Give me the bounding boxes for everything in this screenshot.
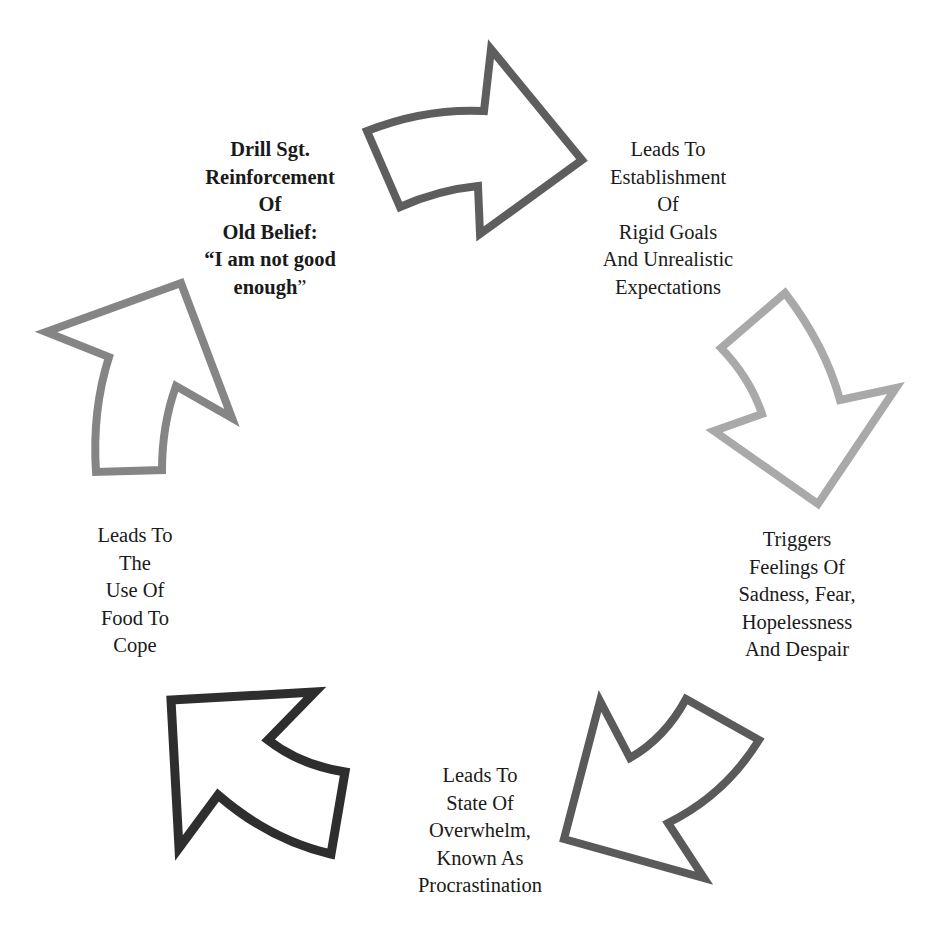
stage-text-line: Food To: [35, 605, 235, 633]
stage-text-line: Of: [568, 191, 768, 219]
stage-text-line: Overwhelm,: [380, 817, 580, 845]
stage-text-line: Rigid Goals: [568, 219, 768, 247]
stage-text-line: Cope: [35, 632, 235, 660]
stage-rigid-goals: Leads To Establishment Of Rigid Goals An…: [568, 136, 768, 301]
stage-feelings: Triggers Feelings Of Sadness, Fear, Hope…: [697, 526, 897, 664]
stage-food-to-cope: Leads To The Use Of Food To Cope: [35, 522, 235, 660]
stage-text-line: Leads To: [380, 762, 580, 790]
stage-text-line: Of: [170, 191, 370, 219]
stage-text-line: And Unrealistic: [568, 246, 768, 274]
stage-text-line: Leads To: [568, 136, 768, 164]
stage-drill-sgt-reinforcement: Drill Sgt. Reinforcement Of Old Belief: …: [170, 136, 370, 301]
stage-text-line: Triggers: [697, 526, 897, 554]
curved-arrow-right-icon: [367, 49, 582, 234]
stage-overwhelm: Leads To State Of Overwhelm, Known As Pr…: [380, 762, 580, 900]
stage-text-line: Procrastination: [380, 872, 580, 900]
stage-text-line: Old Belief:: [170, 219, 370, 247]
stage-text-line: Feelings Of: [697, 554, 897, 582]
stage-text-line: Sadness, Fear,: [697, 581, 897, 609]
stage-text-line: Use Of: [35, 577, 235, 605]
stage-text-line: “I am not good: [170, 246, 370, 274]
stage-text-line: Leads To: [35, 522, 235, 550]
cycle-diagram: Drill Sgt. Reinforcement Of Old Belief: …: [0, 0, 934, 942]
stage-text-line: Establishment: [568, 164, 768, 192]
curved-arrow-up-icon: [46, 283, 232, 472]
curved-arrow-up-left-icon: [171, 692, 345, 854]
stage-text-line: And Despair: [697, 636, 897, 664]
stage-text-line: Hopelessness: [697, 609, 897, 637]
stage-text-fragment: enough: [234, 276, 298, 298]
curved-arrow-down-icon: [714, 293, 896, 504]
stage-text-line: State Of: [380, 790, 580, 818]
closing-quote: ”: [297, 276, 306, 298]
stage-text-line: Drill Sgt.: [170, 136, 370, 164]
stage-text-line: The: [35, 550, 235, 578]
curved-arrow-down-left-icon: [564, 699, 759, 878]
stage-text-line: Reinforcement: [170, 164, 370, 192]
stage-text-line-last: enough”: [170, 274, 370, 302]
stage-text-line: Expectations: [568, 274, 768, 302]
stage-text-line: Known As: [380, 845, 580, 873]
